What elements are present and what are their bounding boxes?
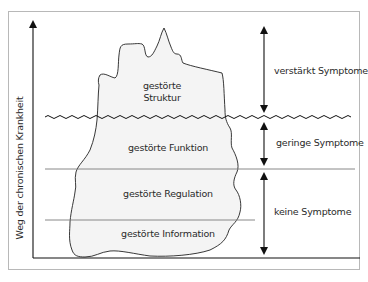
iceberg-diagram: Weg der chronischen Krankheit gestörte S… [0, 0, 368, 282]
layer-label-information: gestörte Information [121, 228, 215, 240]
symptom-label-verstaerkt: verstärkt Symptome [274, 65, 368, 77]
layer-label-struktur-line1: gestörte [143, 80, 181, 92]
symptom-label-keine: keine Symptome [274, 206, 351, 218]
layer-label-funktion: gestörte Funktion [128, 142, 208, 154]
symptom-label-gering: geringe Symptome [276, 137, 364, 149]
y-axis-label: Weg der chronischen Krankheit [14, 97, 25, 240]
layer-label-struktur: gestörte Struktur [143, 80, 181, 104]
layer-label-struktur-line2: Struktur [143, 92, 181, 104]
layer-label-regulation: gestörte Regulation [123, 188, 213, 200]
